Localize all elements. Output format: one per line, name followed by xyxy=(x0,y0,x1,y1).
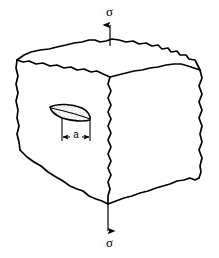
crack-size-label: a xyxy=(62,130,90,140)
figure-drawing-canvas xyxy=(0,0,219,258)
stress-label-top: σ xyxy=(0,5,219,18)
fracture-mechanics-figure: σ σ a xyxy=(0,0,219,258)
stress-label-bottom: σ xyxy=(0,236,219,249)
